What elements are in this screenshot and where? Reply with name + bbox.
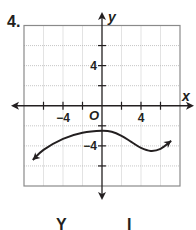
y-axis-label: y [107,9,117,25]
coordinate-plane-chart: −444−4 x y O [0,0,196,230]
svg-text:−4: −4 [56,111,70,125]
axes [11,12,194,200]
x-axis-label: x [181,88,191,104]
svg-text:−4: −4 [83,139,97,153]
cropped-text-fragment-1: Y [56,216,67,230]
origin-label: O [89,108,99,123]
svg-text:4: 4 [90,59,97,73]
svg-text:4: 4 [138,111,145,125]
cropped-text-fragment-2: I [127,216,131,230]
